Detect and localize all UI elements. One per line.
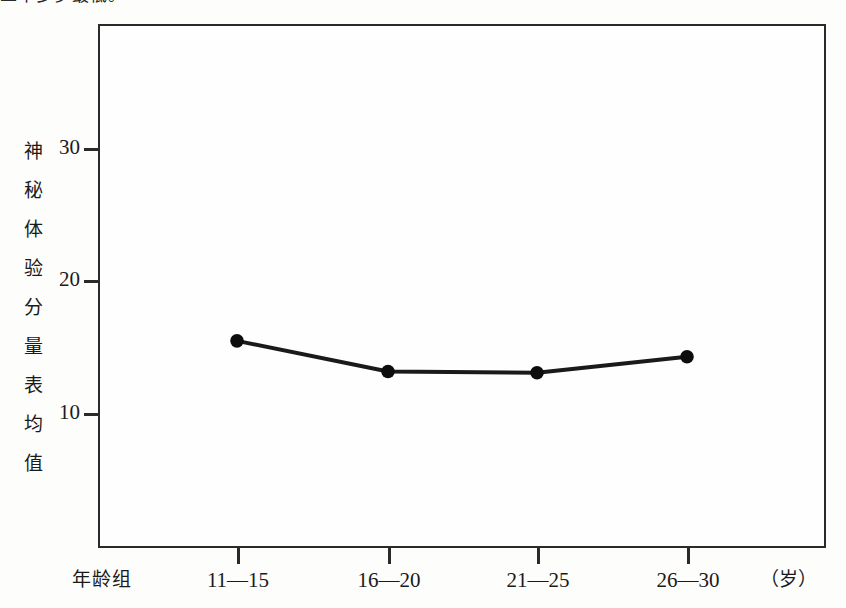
y-tick-label-30: 30 [38, 137, 80, 158]
y-tick-mark-10 [84, 413, 100, 416]
x-axis-unit-label: （岁） [760, 568, 817, 592]
y-tick-mark-30 [84, 148, 100, 151]
y-axis-title-char: 表 [24, 366, 43, 405]
y-axis-title-char: 秘 [24, 171, 43, 210]
x-tick-mark-2 [388, 548, 391, 564]
y-axis-title-char: 值 [24, 444, 43, 483]
x-tick-label-1: 11—15 [168, 568, 308, 592]
figure-container: 二十多岁最低。 神 秘 体 验 分 量 表 均 值 30 20 10 11—15… [0, 0, 846, 608]
y-tick-mark-20 [84, 280, 100, 283]
y-axis-title-char: 分 [24, 288, 43, 327]
plot-frame [98, 24, 826, 548]
y-axis-title-char: 量 [24, 327, 43, 366]
x-tick-mark-4 [687, 548, 690, 564]
clipped-caption-text: 二十多岁最低。 [0, 0, 200, 6]
y-axis-title: 神 秘 体 验 分 量 表 均 值 [20, 132, 46, 483]
y-tick-label-10: 10 [38, 402, 80, 423]
x-axis-title: 年龄组 [72, 568, 132, 592]
x-tick-mark-1 [237, 548, 240, 564]
x-tick-label-3: 21—25 [468, 568, 608, 592]
x-tick-label-2: 16—20 [319, 568, 459, 592]
y-tick-label-20: 20 [38, 269, 80, 290]
y-axis-title-char: 体 [24, 210, 43, 249]
x-tick-mark-3 [537, 548, 540, 564]
x-tick-label-4: 26—30 [618, 568, 758, 592]
